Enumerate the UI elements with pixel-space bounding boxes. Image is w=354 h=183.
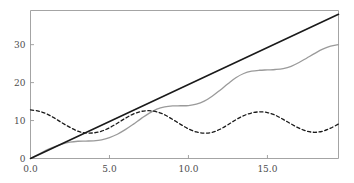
line-chart: 0.05.010.015.0 0102030 (0, 0, 354, 183)
chart-background (0, 0, 354, 183)
y-tick-label-1: 10 (14, 116, 26, 126)
chart-figure: 0.05.010.015.0 0102030 (0, 0, 354, 183)
x-tick-label-2: 10.0 (178, 164, 198, 174)
y-tick-label-3: 30 (14, 40, 26, 50)
x-tick-label-3: 15.0 (257, 164, 277, 174)
x-tick-label-0: 0.0 (23, 164, 38, 174)
y-tick-label-2: 20 (14, 78, 26, 88)
x-tick-label-1: 5.0 (102, 164, 117, 174)
y-tick-label-0: 0 (20, 154, 26, 164)
